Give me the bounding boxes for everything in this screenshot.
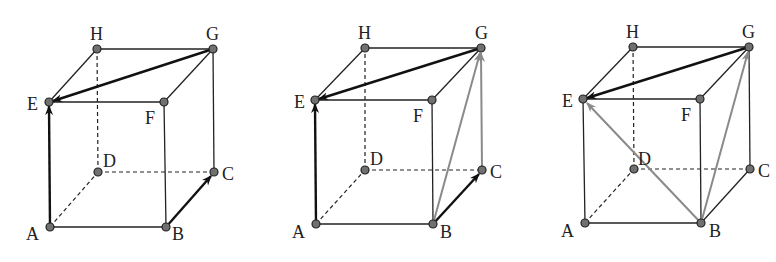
- label-D: D: [638, 149, 651, 169]
- label-B: B: [172, 224, 184, 244]
- label-E: E: [27, 94, 38, 114]
- vector-AE: [49, 106, 50, 227]
- label-A: A: [26, 224, 39, 244]
- label-C: C: [490, 162, 502, 182]
- label-G: G: [475, 23, 488, 43]
- label-B: B: [709, 221, 721, 241]
- cube-3: A B C D E F G H: [561, 22, 770, 241]
- vector-AE: [315, 104, 316, 224]
- label-H: H: [626, 22, 639, 42]
- label-G: G: [742, 22, 755, 42]
- vector-BC: [166, 176, 211, 227]
- vector-CG: [481, 53, 482, 170]
- label-D: D: [103, 151, 116, 171]
- label-E: E: [294, 92, 305, 112]
- label-F: F: [413, 106, 423, 126]
- cube-vector-diagram: A B C D E F G H: [0, 0, 776, 262]
- label-D: D: [370, 149, 383, 169]
- label-C: C: [222, 164, 234, 184]
- label-C: C: [758, 161, 770, 181]
- label-A: A: [292, 222, 305, 242]
- label-F: F: [145, 108, 155, 128]
- label-G: G: [206, 24, 219, 44]
- label-A: A: [561, 221, 574, 241]
- cube-1: A B C D E F G H: [26, 24, 234, 244]
- label-H: H: [358, 23, 371, 43]
- label-F: F: [681, 105, 691, 125]
- cube-3-vertices: [579, 43, 754, 227]
- cube-2: A B C D E F G H: [292, 23, 502, 242]
- label-E: E: [562, 91, 573, 111]
- label-B: B: [440, 222, 452, 242]
- label-H: H: [90, 24, 103, 44]
